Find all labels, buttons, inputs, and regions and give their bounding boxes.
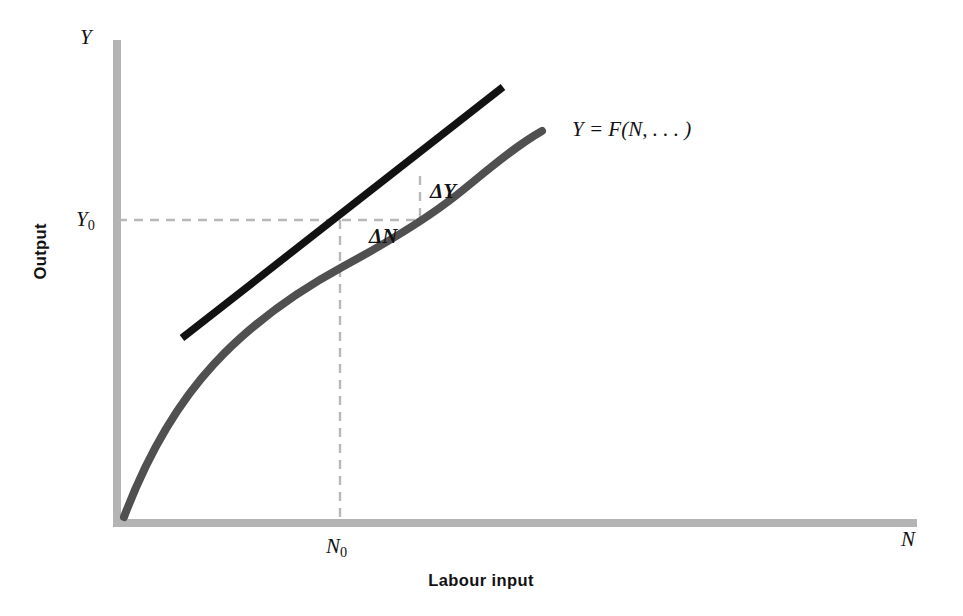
n0-tick-label-base: N (326, 534, 340, 558)
delta-y-annotation: ΔY (430, 181, 456, 202)
y0-tick-label-base: Y (76, 207, 88, 231)
x-axis-title: Labour input (406, 572, 556, 589)
production-function-curve (124, 131, 542, 517)
x-axis-symbol: N (901, 529, 915, 550)
y0-tick-label-subscript: 0 (88, 217, 95, 233)
n0-tick-label: N0 (326, 536, 347, 559)
n0-tick-label-subscript: 0 (340, 544, 347, 560)
y-axis-symbol: Y (80, 27, 92, 48)
y-axis-line (113, 40, 121, 527)
y0-tick-label: Y0 (76, 209, 95, 232)
tangent-line (182, 87, 503, 338)
x-axis-line (113, 519, 917, 527)
y-axis-title: Output (32, 206, 49, 296)
curve-equation-label: Y = F(N, . . . ) (572, 119, 691, 140)
production-function-figure: Y N Y0 N0 ΔY ΔN Y = F(N, . . . ) Output … (0, 0, 963, 616)
plot-area (0, 0, 963, 616)
delta-n-annotation: ΔN (369, 226, 397, 247)
